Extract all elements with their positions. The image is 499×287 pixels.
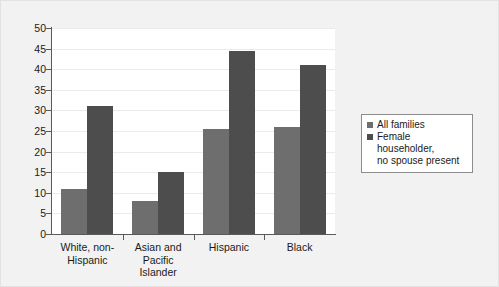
y-axis-tick [46,193,51,194]
y-axis-tick-label: 20 [4,147,46,157]
y-axis-tick [46,110,51,111]
bar [87,106,113,234]
y-axis-tick-label: 45 [4,44,46,54]
y-axis-tick-label: 25 [4,126,46,136]
y-axis-tick-label: 0 [4,229,46,239]
y-axis-tick [46,69,51,70]
x-axis-category-label: Hispanic [194,241,265,254]
chart-legend: All familiesFemale householder, no spous… [361,114,473,173]
legend-item: Female householder, no spouse present [367,131,467,167]
legend-item: All families [367,119,467,131]
y-axis-tick-label: 10 [4,188,46,198]
y-axis-tick [46,28,51,29]
y-axis-tick [46,234,51,235]
legend-label: Female householder, no spouse present [377,131,467,167]
bar [300,65,326,234]
legend-swatch-icon [367,134,373,140]
y-axis-tick-label: 5 [4,208,46,218]
gridline [52,49,335,50]
y-axis-tick-label: 40 [4,64,46,74]
gridline [52,28,335,29]
x-axis-category-label: Asian and PacificIslander [123,241,194,279]
x-axis-category-label: White, non-Hispanic [52,241,123,266]
x-axis-category-label: Black [264,241,335,254]
y-axis-tick-labels: 05101520253035404550 [1,1,46,287]
legend-swatch-icon [367,122,373,128]
y-axis-tick-label: 50 [4,23,46,33]
gridline [52,90,335,91]
gridline [52,69,335,70]
y-axis-tick-label: 15 [4,167,46,177]
plot-area [52,28,335,234]
bar [229,51,255,234]
chart-figure: 05101520253035404550 White, non-Hispanic… [0,0,499,287]
y-axis-tick-label: 35 [4,85,46,95]
bar [61,189,87,234]
y-axis-tick-label: 30 [4,105,46,115]
bar [203,129,229,234]
bar [132,201,158,234]
y-axis-tick [46,90,51,91]
bar [158,172,184,234]
y-axis-line [51,27,52,235]
bar [274,127,300,234]
x-axis-tick [123,235,124,240]
y-axis-tick [46,49,51,50]
legend-label: All families [377,119,425,131]
y-axis-tick [46,172,51,173]
y-axis-tick [46,213,51,214]
y-axis-tick [46,152,51,153]
y-axis-tick [46,131,51,132]
x-axis-tick [264,235,265,240]
x-axis-tick [194,235,195,240]
